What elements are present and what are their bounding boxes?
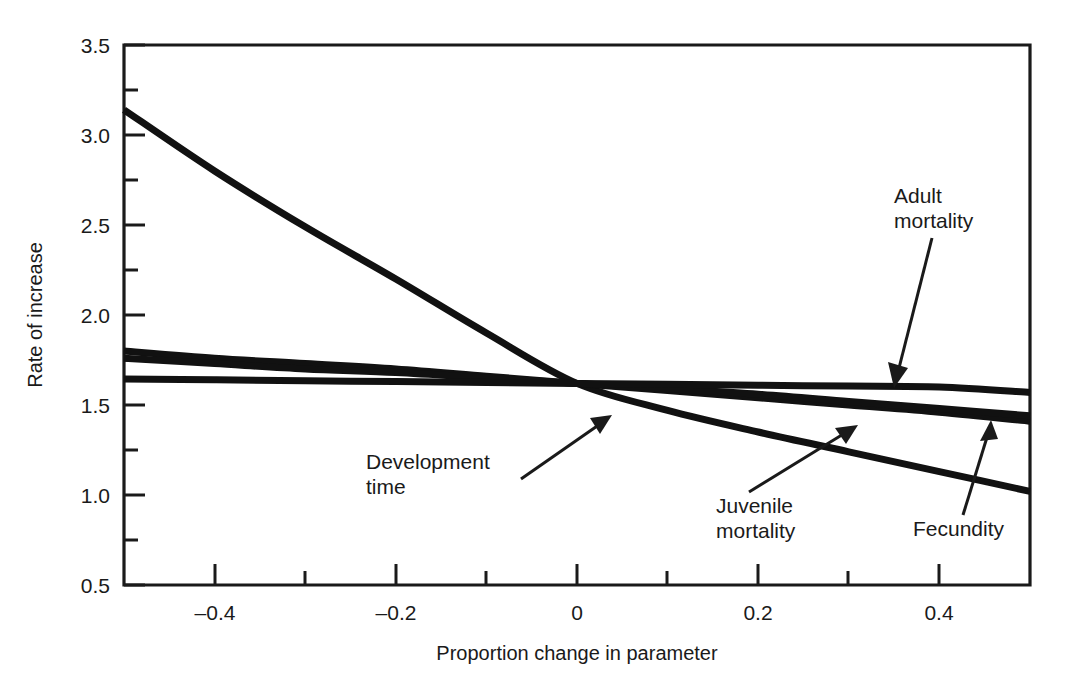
x-tick-label: –0.2 <box>376 601 417 624</box>
annotation-label-development-time-line2: time <box>366 475 406 498</box>
annotation-label-juvenile-mortality-line2: mortality <box>716 519 796 542</box>
annotation-label-fecundity: Fecundity <box>913 517 1005 540</box>
y-tick-label: 0.5 <box>81 574 110 597</box>
y-tick-label: 2.5 <box>81 214 110 237</box>
y-tick-label: 2.0 <box>81 304 110 327</box>
x-tick-label: 0.4 <box>924 601 954 624</box>
annotation-label-juvenile-mortality-line1: Juvenile <box>716 494 793 517</box>
x-tick-label: 0.2 <box>743 601 772 624</box>
x-tick-label: –0.4 <box>195 601 236 624</box>
figure-container: 3.5 3.0 2.5 2.0 1.5 1.0 0.5 –0.4 –0.2 0 … <box>0 0 1088 686</box>
annotation-label-adult-mortality-line2: mortality <box>894 209 974 232</box>
x-tick-label: 0 <box>571 601 583 624</box>
line-chart: 3.5 3.0 2.5 2.0 1.5 1.0 0.5 –0.4 –0.2 0 … <box>0 0 1088 686</box>
x-axis-title: Proportion change in parameter <box>436 642 718 664</box>
y-axis-title: Rate of increase <box>24 242 46 388</box>
y-tick-label: 3.5 <box>81 34 110 57</box>
annotation-label-adult-mortality-line1: Adult <box>894 184 942 207</box>
y-tick-label: 3.0 <box>81 124 110 147</box>
y-tick-label: 1.5 <box>81 394 110 417</box>
y-tick-label: 1.0 <box>81 484 110 507</box>
annotation-label-development-time-line1: Development <box>366 450 490 473</box>
chart-background <box>0 0 1088 686</box>
